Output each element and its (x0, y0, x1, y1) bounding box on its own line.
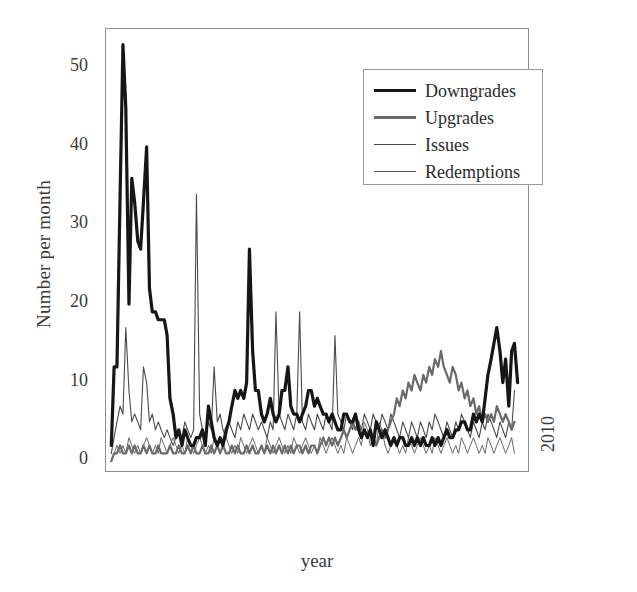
legend-item-upgrades[interactable]: Upgrades (374, 104, 532, 131)
legend-line-swatch (374, 171, 416, 172)
x-tick-mark (389, 471, 390, 472)
legend-item-downgrades[interactable]: Downgrades (374, 77, 532, 104)
x-tick-mark (247, 471, 248, 472)
legend-item-issues[interactable]: Issues (374, 131, 532, 158)
legend-line-swatch (374, 144, 416, 145)
y-tick-mark (105, 147, 106, 148)
chart-figure: Number per month 01020304050 19982000200… (0, 0, 637, 592)
x-tick-mark (459, 471, 460, 472)
legend-item-redemptions[interactable]: Redemptions (374, 158, 532, 185)
x-axis-label: year (105, 550, 529, 572)
legend-line-swatch (374, 89, 416, 92)
legend-label: Downgrades (425, 82, 516, 100)
x-tick-mark (318, 471, 319, 472)
chart-legend: DowngradesUpgradesIssuesRedemptions (363, 69, 543, 185)
y-tick-mark (105, 68, 106, 69)
y-tick-mark (105, 304, 106, 305)
x-tick-mark (106, 471, 107, 472)
legend-label: Issues (425, 136, 469, 154)
legend-label: Upgrades (425, 109, 494, 127)
legend-label: Redemptions (425, 163, 520, 181)
x-tick-mark (177, 471, 178, 472)
x-tick-label: 2010 (538, 416, 559, 486)
y-tick-mark (105, 383, 106, 384)
y-tick-mark (105, 225, 106, 226)
legend-line-swatch (374, 116, 416, 118)
y-tick-mark (105, 461, 106, 462)
